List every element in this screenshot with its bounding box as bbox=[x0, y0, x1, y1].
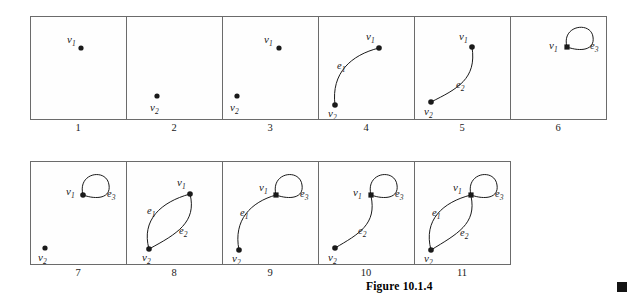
edge-e3-loop bbox=[470, 175, 497, 198]
panel-2-graph: v2 bbox=[127, 17, 222, 119]
edge-e1-curve bbox=[147, 194, 190, 249]
vertex-v1-label: v1 bbox=[549, 39, 558, 54]
panel-9-graph: v1 v2 e1 e3 bbox=[223, 162, 318, 264]
edge-e3-loop bbox=[82, 175, 109, 198]
vertex-v2-dot bbox=[236, 247, 242, 253]
panel-number-3: 3 bbox=[222, 120, 318, 134]
vertex-v2-label: v2 bbox=[232, 252, 241, 264]
edge-e1-label: e1 bbox=[147, 205, 155, 219]
panel-6-graph: v1 e3 bbox=[511, 17, 606, 119]
vertex-v2-dot bbox=[146, 246, 152, 252]
panel-number-7: 7 bbox=[30, 265, 126, 279]
panel-4-graph: v1 v2 e1 bbox=[319, 17, 414, 119]
vertex-v1-dot bbox=[564, 44, 569, 49]
edge-e1-curve bbox=[238, 195, 276, 250]
panel-10-graph: v1 v2 e2 e3 bbox=[319, 162, 414, 264]
panel-1[interactable]: v1 bbox=[31, 17, 127, 119]
vertex-v1-label: v1 bbox=[459, 30, 468, 45]
edge-e2-curve bbox=[431, 47, 473, 102]
vertex-v2-label: v2 bbox=[38, 251, 47, 264]
panel-5-graph: v1 v2 e2 bbox=[415, 17, 510, 119]
panel-4[interactable]: v1 v2 e1 bbox=[319, 17, 415, 119]
edge-e2-label: e2 bbox=[460, 227, 469, 241]
edge-e1-label: e1 bbox=[432, 207, 440, 221]
vertex-v1-dot bbox=[187, 191, 193, 197]
panel-5[interactable]: v1 v2 e2 bbox=[415, 17, 511, 119]
vertex-v1-label: v1 bbox=[177, 176, 186, 191]
edge-e3-label: e3 bbox=[395, 188, 404, 202]
panel-number-2: 2 bbox=[126, 120, 222, 134]
panel-number-9: 9 bbox=[222, 265, 318, 279]
figure-caption: Figure 10.1.4 bbox=[366, 280, 433, 292]
edge-e2-label: e2 bbox=[179, 225, 188, 239]
edge-e1-label: e1 bbox=[337, 60, 345, 74]
vertex-v1-label: v1 bbox=[453, 181, 462, 196]
edge-e3-loop bbox=[370, 175, 397, 198]
vertex-v2-label: v2 bbox=[328, 251, 337, 264]
vertex-v2-dot bbox=[234, 93, 239, 98]
panel-number-8: 8 bbox=[126, 265, 222, 279]
edge-e1-label: e1 bbox=[240, 207, 248, 221]
vertex-v2-label: v2 bbox=[424, 252, 433, 264]
vertex-v2-dot bbox=[428, 247, 434, 253]
panel-number-1: 1 bbox=[30, 120, 126, 134]
vertex-v1-label: v1 bbox=[67, 33, 76, 48]
vertex-v2-dot bbox=[428, 99, 434, 105]
edge-e2-curve bbox=[431, 196, 472, 250]
panel-10[interactable]: v1 v2 e2 e3 bbox=[319, 162, 415, 264]
edge-e3-label: e3 bbox=[590, 40, 599, 54]
vertex-v2-label: v2 bbox=[230, 101, 239, 116]
edge-e1-curve bbox=[429, 195, 471, 250]
panel-number-10: 10 bbox=[318, 265, 414, 279]
panel-number-4: 4 bbox=[318, 120, 414, 134]
panel-strip-row-2: v1 e3 v2 v1 v2 e1 e2 bbox=[30, 161, 511, 265]
panel-number-row-2: 7 8 9 10 11 bbox=[30, 265, 511, 279]
panel-number-row-1: 1 2 3 4 5 6 bbox=[30, 120, 607, 134]
vertex-v1-dot bbox=[376, 45, 382, 51]
vertex-v1-dot bbox=[468, 192, 473, 197]
vertex-v1-dot bbox=[368, 192, 373, 197]
panel-8-graph: v1 v2 e1 e2 bbox=[127, 162, 222, 264]
vertex-v1-label: v1 bbox=[353, 186, 362, 201]
vertex-v1-label: v1 bbox=[259, 181, 268, 196]
edge-e3-label: e3 bbox=[300, 188, 309, 202]
panel-strip-row-1: v1 v2 v1 v2 bbox=[30, 16, 607, 120]
edge-e3-label: e3 bbox=[107, 188, 116, 202]
panel-11-graph: v1 v2 e1 e2 e3 bbox=[415, 162, 510, 264]
panel-2[interactable]: v2 bbox=[127, 17, 223, 119]
panel-8[interactable]: v1 v2 e1 e2 bbox=[127, 162, 223, 264]
panel-number-6: 6 bbox=[510, 120, 606, 134]
vertex-v1-dot bbox=[276, 45, 281, 50]
panel-6[interactable]: v1 e3 bbox=[511, 17, 606, 119]
end-of-proof-square-icon bbox=[617, 282, 627, 292]
panel-number-11: 11 bbox=[414, 265, 510, 279]
vertex-v2-label: v2 bbox=[150, 101, 159, 116]
vertex-v1-label: v1 bbox=[66, 185, 75, 200]
panel-7-graph: v1 e3 v2 bbox=[31, 162, 126, 264]
edge-e2-curve bbox=[335, 196, 372, 248]
vertex-v2-dot bbox=[332, 102, 338, 108]
panel-11[interactable]: v1 v2 e1 e2 e3 bbox=[415, 162, 510, 264]
panel-row-1: v1 v2 v1 v2 bbox=[30, 16, 607, 134]
vertex-v1-dot bbox=[78, 45, 83, 50]
panel-7[interactable]: v1 e3 v2 bbox=[31, 162, 127, 264]
vertex-v2-label: v2 bbox=[424, 105, 433, 119]
vertex-v1-dot bbox=[469, 44, 475, 50]
vertex-v1-dot bbox=[80, 192, 86, 198]
vertex-v1-label: v1 bbox=[366, 30, 375, 45]
panel-number-5: 5 bbox=[414, 120, 510, 134]
edge-e3-label: e3 bbox=[495, 188, 504, 202]
panel-1-graph: v1 bbox=[31, 17, 126, 119]
vertex-v2-dot bbox=[42, 245, 47, 250]
edge-e1-curve bbox=[334, 48, 379, 105]
vertex-v2-dot bbox=[154, 93, 159, 98]
vertex-v2-label: v2 bbox=[142, 251, 151, 264]
panel-row-2: v1 e3 v2 v1 v2 e1 e2 bbox=[30, 161, 511, 279]
vertex-v2-dot bbox=[332, 245, 338, 251]
edge-e2-label: e2 bbox=[358, 225, 367, 239]
panel-3-graph: v1 v2 bbox=[223, 17, 318, 119]
edge-e3-loop bbox=[275, 175, 302, 198]
panel-3[interactable]: v1 v2 bbox=[223, 17, 319, 119]
figure-container: v1 v2 v1 v2 bbox=[0, 0, 637, 300]
panel-9[interactable]: v1 v2 e1 e3 bbox=[223, 162, 319, 264]
